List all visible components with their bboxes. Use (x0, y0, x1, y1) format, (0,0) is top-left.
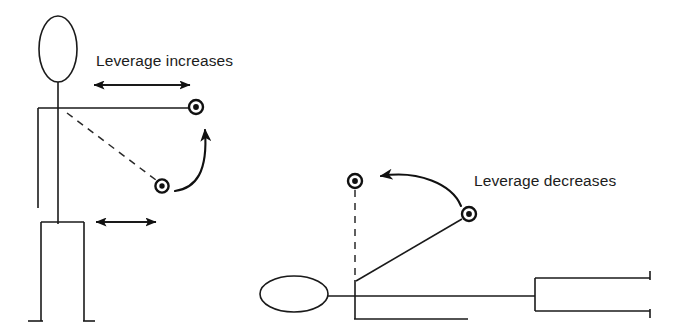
arm-extended-diagonal-line (356, 219, 462, 281)
standing-figure-panel: Leverage increases (28, 16, 233, 321)
lying-figure (260, 271, 650, 319)
leverage-diagram: Leverage increases (0, 0, 678, 336)
leverage-increases-label: Leverage increases (96, 52, 233, 69)
arm-lowered-dashed-line (67, 113, 156, 180)
lying-figure-panel: Leverage decreases (260, 172, 650, 319)
head-ellipse-lying (260, 276, 328, 312)
weight-lowered (155, 179, 168, 192)
head-ellipse-standing (39, 16, 77, 82)
diagram-canvas: Leverage increases (0, 0, 678, 336)
upward-rotation-arrow (175, 130, 205, 191)
weight-extended-diagonal (462, 207, 476, 221)
leftward-rotation-arrow (381, 175, 461, 206)
weight-over-chest (348, 174, 362, 188)
legs-box-lying (535, 271, 650, 318)
leverage-decreases-label: Leverage decreases (474, 172, 616, 189)
weight-extended (189, 100, 203, 114)
